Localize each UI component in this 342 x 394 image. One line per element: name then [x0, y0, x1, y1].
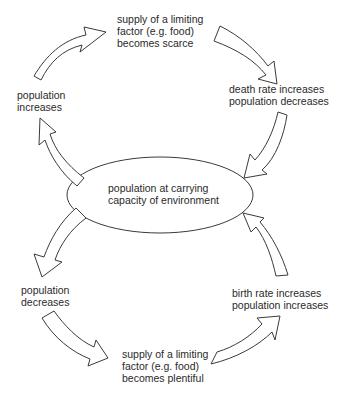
label-death-rate: death rate increases population decrease…	[229, 83, 329, 107]
label-birth-rate: birth rate increases population increase…	[232, 287, 328, 311]
arrow-plentiful-to-birth-icon	[211, 316, 280, 364]
label-carrying-capacity: population at carrying capacity of envir…	[108, 182, 219, 206]
arrow-decrease-to-plentiful-icon	[42, 311, 108, 366]
label-population-decreases: population decreases	[21, 284, 69, 308]
label-population-increases: population increases	[17, 89, 65, 113]
arrow-death-to-capacity-icon	[244, 112, 287, 178]
arrow-scarce-to-death-icon	[214, 26, 277, 84]
arrow-increase-to-scarce-icon	[34, 27, 106, 80]
arrow-capacity-to-increase-icon	[39, 118, 84, 186]
arrow-birth-to-capacity-icon	[243, 213, 288, 276]
label-supply-scarce: supply of a limiting factor (e.g. food) …	[117, 13, 203, 49]
label-supply-plentiful: supply of a limiting factor (e.g. food) …	[122, 348, 208, 384]
arrow-capacity-to-decrease-icon	[34, 208, 86, 277]
carrying-capacity-diagram: supply of a limiting factor (e.g. food) …	[0, 0, 342, 394]
